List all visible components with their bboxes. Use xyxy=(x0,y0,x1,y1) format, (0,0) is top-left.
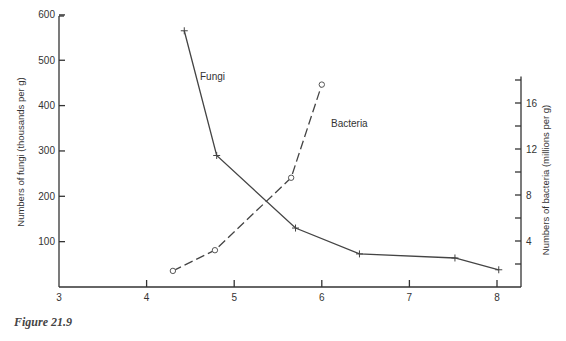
series-label-fungi: Fungi xyxy=(200,71,225,82)
x-tick-label: 6 xyxy=(319,292,325,303)
tick-labels: 100200300400500600345678481216 xyxy=(38,9,537,303)
plus-marker-icon xyxy=(495,266,502,273)
y2-tick-label: 16 xyxy=(526,98,538,109)
y2-tick-label: 12 xyxy=(526,144,538,155)
plus-marker-icon xyxy=(451,254,458,261)
x-tick-label: 7 xyxy=(407,292,413,303)
chart-figure: 100200300400500600345678481216 Fungi Bac… xyxy=(0,0,566,310)
x-tick-label: 4 xyxy=(144,292,150,303)
y2-tick-label: 8 xyxy=(526,190,532,201)
x-tick-label: 8 xyxy=(494,292,500,303)
y-tick-label: 400 xyxy=(38,100,55,111)
circle-marker-icon xyxy=(319,82,324,87)
y-axis-title-right: Numbers of bacteria (millions per g) xyxy=(540,105,551,255)
y-tick-label: 600 xyxy=(38,9,55,20)
axes xyxy=(59,15,521,287)
y-tick-label: 200 xyxy=(38,191,55,202)
x-tick-label: 5 xyxy=(231,292,237,303)
circle-marker-icon xyxy=(288,175,293,180)
plus-marker-icon xyxy=(356,250,363,257)
circle-marker-icon xyxy=(170,268,175,273)
x-tick-label: 3 xyxy=(56,292,62,303)
figure-caption: Figure 21.9 xyxy=(14,315,72,330)
series-line-bacteria xyxy=(173,85,322,271)
data-series xyxy=(170,27,502,273)
y2-tick-label: 4 xyxy=(526,236,532,247)
series-label-bacteria: Bacteria xyxy=(331,118,368,129)
plus-marker-icon xyxy=(181,27,188,34)
circle-marker-icon xyxy=(212,248,217,253)
y-tick-label: 300 xyxy=(38,145,55,156)
y-tick-label: 500 xyxy=(38,55,55,66)
series-bacteria xyxy=(170,82,324,274)
y-tick-label: 100 xyxy=(38,236,55,247)
y-axis-title-left: Numbers of fungi (thousands per g) xyxy=(15,77,26,226)
